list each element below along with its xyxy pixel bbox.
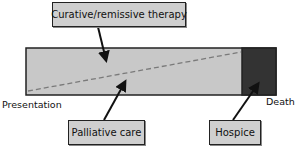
palliative-care-label: Palliative care bbox=[68, 120, 145, 145]
presentation-label: Presentation bbox=[2, 99, 62, 110]
palliative-care-text: Palliative care bbox=[72, 128, 142, 138]
hospice-text: Hospice bbox=[215, 128, 255, 138]
curative-therapy-text: Curative/remissive therapy bbox=[51, 10, 187, 20]
timeline-bar bbox=[26, 48, 276, 95]
hospice-label: Hospice bbox=[209, 120, 261, 145]
curative-therapy-label: Curative/remissive therapy bbox=[52, 2, 186, 27]
hospice-segment bbox=[242, 48, 276, 95]
death-label: Death bbox=[266, 96, 295, 107]
care-timeline-diagram: Curative/remissive therapy Palliative ca… bbox=[0, 0, 296, 151]
